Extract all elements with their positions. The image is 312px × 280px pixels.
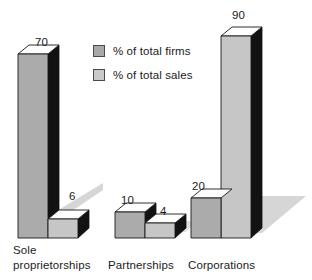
- value-label-part-firms: 10: [121, 194, 134, 206]
- bar-part-sales: [145, 214, 186, 238]
- bar-part-firms-front: [115, 212, 145, 238]
- legend-item-firms: % of total firms: [93, 40, 193, 61]
- bar-corp-sales: [221, 27, 262, 238]
- bar-corp-firms-front: [191, 198, 221, 238]
- bar-sole-firms-front: [18, 54, 48, 238]
- category-label-sole-line2: proprietorships: [13, 258, 91, 273]
- bar-corp-sales-side: [251, 27, 262, 238]
- legend-label-firms: % of total firms: [113, 45, 191, 57]
- sales-swatch-icon: [93, 69, 105, 81]
- bar-part-sales-front: [145, 223, 175, 238]
- firms-swatch-icon: [93, 45, 105, 57]
- category-label-sole-line1: Sole: [13, 243, 91, 258]
- value-label-corp-firms: 20: [192, 180, 205, 192]
- value-label-part-sales: 4: [160, 205, 167, 217]
- value-label-sole-sales: 6: [69, 190, 76, 202]
- chart-legend: % of total firms % of total sales: [93, 40, 193, 88]
- bar-sole-sales: [48, 210, 89, 238]
- category-label-partnerships: Partnerships: [108, 258, 174, 273]
- bar-sole-sales-front: [48, 219, 78, 238]
- value-label-sole-firms: 70: [35, 36, 48, 48]
- category-label-corporations: Corporations: [188, 258, 255, 273]
- bar-sole-firms-side: [48, 45, 59, 238]
- value-label-corp-sales: 90: [232, 9, 245, 21]
- legend-item-sales: % of total sales: [93, 64, 193, 85]
- bar-corp-sales-front: [221, 36, 251, 238]
- category-label-sole-proprietorships: Sole proprietorships: [13, 243, 91, 273]
- bar-chart: 70 6 10 4 20 90 Sole proprietorships Par…: [0, 0, 312, 280]
- bar-sole-firms: [18, 45, 59, 238]
- legend-label-sales: % of total sales: [113, 69, 193, 81]
